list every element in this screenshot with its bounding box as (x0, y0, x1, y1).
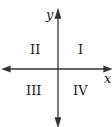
y-axis-down-arrow-icon (56, 118, 61, 126)
axes-graphic (0, 0, 112, 127)
quadrant-iii-label: III (26, 84, 41, 97)
y-axis-label: y (46, 8, 53, 21)
y-axis-up-arrow-icon (56, 10, 61, 18)
coordinate-plane: y x I II III IV (0, 0, 112, 127)
x-axis-label: x (104, 72, 111, 85)
quadrant-ii-label: II (30, 43, 40, 56)
quadrant-i-label: I (78, 43, 83, 56)
quadrant-iv-label: IV (73, 84, 88, 97)
x-axis-left-arrow-icon (3, 67, 10, 72)
